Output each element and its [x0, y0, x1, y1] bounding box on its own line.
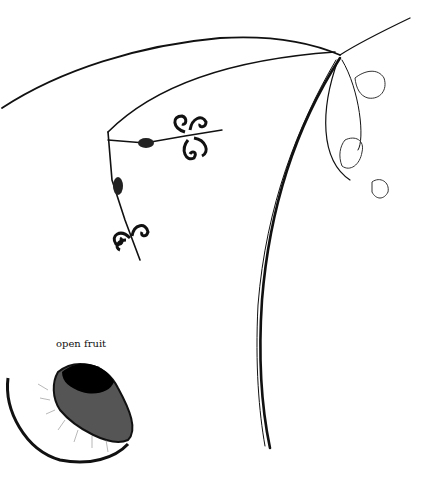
flower	[340, 138, 363, 168]
bud	[138, 138, 154, 148]
upper-right-stem	[340, 18, 410, 55]
flower	[355, 71, 385, 98]
peduncle-stem	[108, 52, 335, 132]
flower-stalk-2	[342, 60, 361, 150]
main-stem	[260, 58, 340, 448]
figure-label: open fruit	[56, 338, 106, 349]
flower-stalk	[326, 60, 350, 180]
flower	[372, 180, 388, 198]
bud	[113, 177, 123, 195]
botanical-line-drawing	[0, 0, 433, 495]
arching-stem	[2, 37, 340, 108]
branch-horizontal	[108, 130, 222, 143]
